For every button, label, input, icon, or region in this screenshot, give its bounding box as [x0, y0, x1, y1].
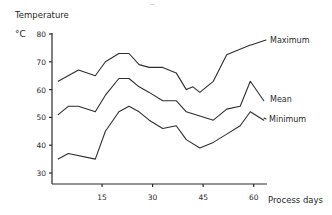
y-tick-label: 50	[36, 113, 46, 122]
legend-label-minimum: Minimum	[269, 115, 306, 124]
legend-label-mean: Mean	[270, 95, 292, 104]
y-axis-title: Temperature	[14, 10, 69, 20]
series-minimum-line	[58, 106, 264, 159]
page-header-fragment: ...	[150, 0, 155, 6]
minimum-leader-line	[264, 118, 266, 119]
x-tick-label: 30	[148, 193, 158, 202]
x-tick-label: 45	[198, 193, 208, 202]
y-tick-label: 60	[36, 86, 46, 95]
y-tick-label: 40	[36, 141, 46, 150]
series-mean-line	[58, 79, 264, 121]
y-tick-label: 30	[36, 169, 46, 178]
x-ticks: 15304560	[97, 184, 258, 202]
series-maximum-line	[58, 45, 250, 92]
inline-legend: Maximum Mean Minimum	[251, 36, 310, 124]
y-tick-label: 70	[36, 58, 46, 67]
y-ticks: 304050607080	[36, 30, 52, 178]
y-tick-label: 80	[36, 30, 46, 39]
x-tick-label: 15	[97, 193, 107, 202]
temperature-line-chart: ... Temperature °C 304050607080 15304560…	[0, 0, 332, 215]
legend-label-maximum: Maximum	[270, 36, 310, 45]
series-group	[58, 45, 264, 159]
x-axis-title: Process days	[268, 195, 324, 205]
maximum-leader-line	[251, 40, 266, 45]
y-axis-unit: °C	[15, 29, 26, 39]
x-tick-label: 60	[249, 193, 259, 202]
